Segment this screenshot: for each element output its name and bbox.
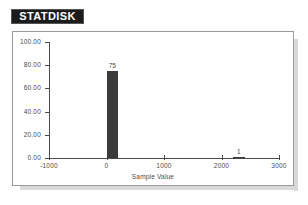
y-tick-mark — [45, 135, 50, 136]
histogram-bar — [233, 157, 245, 158]
x-tick-label: 0 — [85, 163, 129, 170]
x-tick-label: -1000 — [27, 163, 71, 170]
x-tick-label: 1000 — [142, 163, 186, 170]
y-tick-label: 20.00 — [1, 132, 41, 139]
x-tick-mark — [279, 155, 280, 160]
chart-panel-shadow-bottom — [20, 186, 298, 190]
x-axis-title: Sample Value — [13, 173, 293, 180]
x-tick-label: 3000 — [257, 163, 301, 170]
bar-value-label: 75 — [87, 63, 139, 70]
histogram-plot: 0.0020.0040.0060.0080.00100.00 -10000100… — [13, 32, 293, 185]
x-tick-mark — [222, 155, 223, 160]
x-tick-mark — [164, 155, 165, 160]
y-tick-label: 80.00 — [1, 62, 41, 69]
y-tick-label: 60.00 — [1, 85, 41, 92]
statdisk-logo: STATDISK — [11, 9, 84, 24]
y-tick-mark — [45, 88, 50, 89]
histogram-bar — [107, 71, 119, 158]
y-tick-mark — [45, 65, 50, 66]
y-axis-line — [49, 42, 50, 159]
y-tick-mark — [45, 42, 50, 43]
chart-panel: 0.0020.0040.0060.0080.00100.00 -10000100… — [12, 31, 294, 186]
y-tick-label: 40.00 — [1, 109, 41, 116]
y-tick-label: 100.00 — [1, 39, 41, 46]
y-tick-label: 0.00 — [1, 155, 41, 162]
y-tick-mark — [45, 112, 50, 113]
statdisk-logo-text: STATDISK — [19, 11, 76, 22]
bar-value-label: 1 — [213, 149, 265, 156]
x-tick-label: 2000 — [200, 163, 244, 170]
x-tick-mark — [49, 155, 50, 160]
